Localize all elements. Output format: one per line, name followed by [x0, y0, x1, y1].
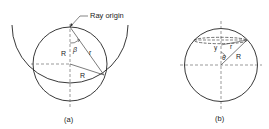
label-R-vertical: R: [61, 50, 66, 57]
label-theta: θ: [222, 54, 226, 61]
label-beta: β: [72, 46, 77, 54]
panel-b: y r θ R (b): [180, 21, 262, 123]
label-R-radius: R: [80, 72, 85, 79]
label-R-b: R: [236, 53, 241, 60]
diagram-canvas: Ray origin R β r R (a) y r θ R: [0, 0, 269, 129]
label-r-b: r: [230, 43, 233, 50]
radius-R-line: [70, 64, 104, 75]
diagram-figure: Ray origin R β r R (a) y r θ R: [0, 0, 269, 129]
panel-a: Ray origin R β r R (a): [12, 11, 128, 124]
angle-beta-arc: [70, 40, 79, 43]
caption-a: (a): [64, 115, 74, 124]
ray-origin-arrowhead: [70, 23, 73, 27]
ray-origin-leader: [70, 16, 88, 27]
ray-origin-label: Ray origin: [90, 11, 124, 20]
dashed-ring-ellipse: [194, 37, 247, 43]
label-y: y: [214, 44, 218, 52]
label-r: r: [89, 49, 92, 56]
caption-b: (b): [215, 114, 225, 123]
